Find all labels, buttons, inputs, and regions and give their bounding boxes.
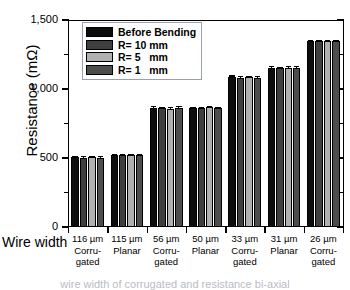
- category-type-line1: Corru-: [144, 245, 188, 257]
- category-width: 56 µm: [144, 233, 188, 245]
- legend-item: R= 1 mm: [86, 64, 196, 77]
- bar[interactable]: [71, 157, 78, 227]
- error-bar-cap: [333, 40, 338, 41]
- error-bar-cap: [159, 107, 164, 108]
- category-type-line1: Planar: [262, 245, 306, 257]
- category-type-line2: gated: [223, 256, 267, 268]
- bar[interactable]: [150, 108, 157, 227]
- legend-item: R= 5 mm: [86, 51, 196, 64]
- category-type-line1: Planar: [184, 245, 228, 257]
- y-tick-label: 500: [40, 152, 58, 162]
- bar[interactable]: [175, 108, 182, 227]
- bar[interactable]: [315, 41, 322, 227]
- error-bar-cap: [98, 156, 103, 157]
- error-bar-cap: [199, 107, 204, 108]
- category-width: 50 µm: [184, 233, 228, 245]
- legend-swatch-1: [86, 40, 113, 50]
- bar[interactable]: [97, 158, 104, 227]
- x-category-label: 50 µmPlanar: [184, 233, 228, 256]
- bar[interactable]: [332, 41, 339, 227]
- y-tick-major-right: [337, 19, 344, 20]
- error-bar-cap: [229, 75, 234, 76]
- error-bar-cap: [168, 107, 173, 108]
- category-width: 26 µm: [301, 233, 345, 245]
- y-tick-minor-right: [339, 54, 344, 55]
- y-tick-label: 1,500: [30, 14, 58, 24]
- error-bar-cap: [308, 40, 313, 41]
- error-bar-cap: [255, 76, 260, 77]
- category-width: 115 µm: [105, 233, 149, 245]
- bar[interactable]: [198, 108, 205, 227]
- x-category-label: 26 µmCorru-gated: [301, 233, 345, 268]
- bar[interactable]: [119, 155, 126, 227]
- bar[interactable]: [307, 41, 314, 227]
- error-bar-cap: [246, 76, 251, 77]
- bar[interactable]: [214, 108, 221, 227]
- bar[interactable]: [276, 68, 283, 227]
- category-type-line1: Corru-: [301, 245, 345, 257]
- bar[interactable]: [245, 77, 252, 227]
- bar[interactable]: [285, 68, 292, 227]
- bar[interactable]: [127, 155, 134, 227]
- figure-caption: wire width of corrugated and resistance …: [0, 278, 350, 290]
- y-tick-minor: [64, 54, 69, 55]
- legend-swatch-0: [86, 27, 113, 37]
- x-category-label: 33 µmCorru-gated: [223, 233, 267, 268]
- category-type-line1: Corru-: [223, 245, 267, 257]
- bar[interactable]: [228, 77, 235, 227]
- y-tick-minor-right: [339, 192, 344, 193]
- bar[interactable]: [80, 158, 87, 227]
- x-axis-title: Wire width: [2, 234, 67, 250]
- error-bar-cap: [277, 67, 282, 68]
- error-bar-cap: [325, 40, 330, 41]
- y-tick-minor-right: [339, 123, 344, 124]
- x-category-label: 31 µmPlanar: [262, 233, 306, 256]
- error-bar-cap: [112, 154, 117, 155]
- bar[interactable]: [293, 68, 300, 227]
- bar[interactable]: [88, 157, 95, 227]
- bar[interactable]: [206, 107, 213, 227]
- bar[interactable]: [254, 78, 261, 227]
- error-bar-cap: [269, 66, 274, 67]
- error-bar-cap: [294, 66, 299, 67]
- legend-item: R= 10 mm: [86, 39, 196, 52]
- x-category-label: 56 µmCorru-gated: [144, 233, 188, 268]
- error-bar-cap: [81, 156, 86, 157]
- error-bar-cap: [151, 106, 156, 107]
- category-width: 116 µm: [66, 233, 110, 245]
- error-bar-cap: [207, 106, 212, 107]
- legend-swatch-3: [86, 65, 113, 75]
- bar[interactable]: [237, 78, 244, 227]
- bar[interactable]: [268, 68, 275, 227]
- category-type-line2: gated: [66, 256, 110, 268]
- bar[interactable]: [158, 108, 165, 227]
- category-width: 33 µm: [223, 233, 267, 245]
- error-bar-cap: [120, 154, 125, 155]
- bar[interactable]: [324, 41, 331, 227]
- y-tick-minor: [64, 192, 69, 193]
- legend-swatch-2: [86, 52, 113, 62]
- error-bar-cap: [128, 154, 133, 155]
- error-bar-cap: [238, 76, 243, 77]
- error-bar-cap: [190, 107, 195, 108]
- chart-legend[interactable]: Before Bending R= 10 mm R= 5 mm R= 1 mm: [82, 22, 202, 80]
- bar[interactable]: [136, 155, 143, 227]
- legend-item: Before Bending: [86, 26, 196, 39]
- error-bar-cap: [72, 156, 77, 157]
- category-width: 31 µm: [262, 233, 306, 245]
- y-tick-major: [62, 88, 69, 89]
- category-type-line2: gated: [144, 256, 188, 268]
- y-tick-major: [62, 19, 69, 20]
- error-bar-cap: [215, 107, 220, 108]
- bar[interactable]: [167, 109, 174, 227]
- category-type-line1: Corru-: [66, 245, 110, 257]
- legend-label-2: R= 5 mm: [118, 52, 168, 62]
- x-category-label: 116 µmCorru-gated: [66, 233, 110, 268]
- error-bar-cap: [89, 156, 94, 157]
- bar[interactable]: [111, 155, 118, 227]
- bar[interactable]: [189, 108, 196, 227]
- category-type-line1: Planar: [105, 245, 149, 257]
- y-tick-label: 1,000: [30, 83, 58, 93]
- y-tick-label: 0: [52, 221, 58, 231]
